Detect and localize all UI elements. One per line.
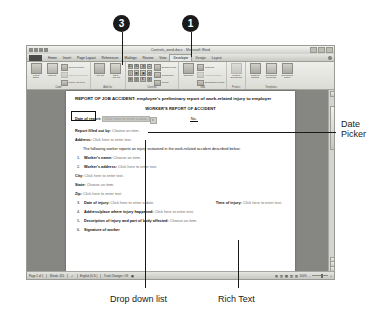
- minimize-button[interactable]: [310, 47, 317, 53]
- callout-3: 3: [113, 15, 130, 32]
- close-button[interactable]: [326, 47, 333, 53]
- tab-insert[interactable]: Insert: [60, 55, 74, 62]
- document-page[interactable]: REPORT OF JOB ACCIDENT: employee's preli…: [66, 91, 295, 272]
- zoom-in-button[interactable]: +: [330, 274, 332, 278]
- date-picker-annotation-line-2: Picker: [341, 129, 366, 139]
- window-controls[interactable]: [310, 47, 333, 53]
- intro-text: The following worker reports an injury s…: [83, 147, 240, 151]
- building-block-control-icon[interactable]: ▧: [147, 70, 152, 75]
- structure-button[interactable]: Structure: [181, 63, 195, 77]
- com-add-ins-button[interactable]: COMAdd-Ins: [109, 63, 123, 80]
- properties-button[interactable]: Properties: [154, 72, 176, 79]
- status-language[interactable]: English (U.S.): [80, 274, 97, 278]
- item-4-value[interactable]: Click here to enter text.: [155, 210, 194, 214]
- status-zoom-level[interactable]: 100%: [300, 274, 307, 278]
- add-ins-button[interactable]: Add-Ins: [93, 63, 107, 77]
- document-panel-button[interactable]: DocumentPanel: [280, 63, 294, 80]
- item-3: 3. Date of injury: Click here to enter a…: [75, 201, 286, 205]
- item-6: 6. Signature of worker: [75, 228, 286, 232]
- tab-references[interactable]: References: [99, 55, 122, 62]
- status-page[interactable]: Page 1 of 1: [29, 274, 43, 278]
- visual-basic-icon: [31, 63, 42, 74]
- schema-icon: [197, 64, 204, 71]
- scroll-thumb[interactable]: [330, 106, 336, 150]
- state-value[interactable]: Choose an item.: [87, 183, 115, 187]
- item-1-value[interactable]: Choose an item.: [113, 156, 141, 160]
- drop-down-list-control-icon[interactable]: ▦: [134, 70, 139, 75]
- callout-1: 1: [182, 15, 199, 32]
- transformation-icon: [197, 72, 204, 79]
- date-picker-control[interactable]: Click here to enter a date.: [102, 116, 149, 122]
- tab-view[interactable]: View: [156, 55, 169, 62]
- plain-text-control-icon[interactable]: Aa: [134, 64, 139, 69]
- print-layout-icon[interactable]: ▤: [275, 274, 278, 278]
- zip-value[interactable]: Click here to enter text.: [83, 192, 122, 196]
- vertical-scrollbar[interactable]: [328, 90, 334, 272]
- tab-review[interactable]: Review: [140, 55, 157, 62]
- web-layout-icon[interactable]: ▦: [285, 274, 288, 278]
- status-words[interactable]: Words: 415: [50, 274, 64, 278]
- legacy-checkbox-icon[interactable]: ▥: [134, 77, 139, 82]
- date-picker-dropdown-arrow[interactable]: ▾: [150, 117, 157, 124]
- zoom-out-button[interactable]: −: [309, 274, 311, 278]
- restrict-editing-button[interactable]: RestrictEditing: [248, 63, 262, 80]
- insert-overtype-icon[interactable]: ▣: [131, 274, 134, 278]
- address-value[interactable]: Click here to enter text.: [93, 138, 132, 142]
- item-5-value[interactable]: Choose an item.: [170, 219, 198, 223]
- help-icon[interactable]: [328, 56, 332, 60]
- tab-page-layout[interactable]: Page Layout: [74, 55, 99, 62]
- record-macro-icon: [61, 64, 68, 71]
- item-1: 1. Worker's name: Choose an item.: [75, 156, 286, 160]
- scroll-up-button[interactable]: [330, 91, 336, 97]
- tab-developer[interactable]: Developer: [169, 54, 192, 62]
- legacy-text-field-icon[interactable]: ▤: [128, 77, 133, 82]
- content-controls-gallery[interactable]: Aa Aa ▤ ☑ ☰ ▦ ▣ ▧ ▤ ▥ A↓ ▨: [128, 63, 153, 82]
- document-panel-icon: [282, 63, 293, 74]
- time-of-injury-value[interactable]: Click here to enter text.: [243, 201, 282, 205]
- visual-basic-label-2: Basic: [33, 76, 39, 79]
- ribbon-group-protect-label: Protect: [227, 86, 245, 89]
- status-track-changes[interactable]: Track Changes: Off: [104, 274, 128, 278]
- outline-icon[interactable]: ▧: [290, 274, 293, 278]
- combo-box-control-icon[interactable]: ☰: [128, 70, 133, 75]
- office-button[interactable]: [29, 55, 42, 62]
- zoom-slider-knob[interactable]: [321, 274, 323, 278]
- macros-button[interactable]: Macros: [45, 63, 59, 77]
- draft-icon[interactable]: ▨: [295, 274, 298, 278]
- visual-basic-button[interactable]: VisualBasic: [29, 63, 43, 80]
- proofing-icon[interactable]: ✓: [71, 274, 74, 278]
- tab-mailings[interactable]: Mailings: [121, 55, 139, 62]
- restore-button[interactable]: [318, 47, 325, 53]
- pause-recording-button: Pause Recording: [61, 72, 88, 79]
- protect-document-button[interactable]: ProtectDocument: [229, 63, 243, 80]
- picture-control-icon[interactable]: ▤: [140, 64, 145, 69]
- city-value[interactable]: Click here to enter text.: [85, 174, 124, 178]
- tab-design[interactable]: Design: [192, 55, 208, 62]
- item-5: 5. Description of injury and part of bod…: [75, 219, 286, 223]
- document-template-icon: [266, 63, 277, 74]
- restrict-editing-label-2: Editing: [251, 76, 259, 79]
- full-screen-icon[interactable]: ▥: [280, 274, 283, 278]
- legacy-combo-icon[interactable]: A↓: [140, 77, 145, 82]
- zoom-slider[interactable]: [312, 275, 328, 276]
- record-macro-button[interactable]: Record Macro: [61, 64, 88, 71]
- checkbox-control-icon[interactable]: ☑: [147, 64, 152, 69]
- tab-home[interactable]: Home: [45, 55, 60, 62]
- item-3-value[interactable]: Click here to enter a date.: [111, 201, 154, 205]
- item-2-value[interactable]: Click here to enter text.: [118, 165, 157, 169]
- legacy-tools-icon[interactable]: ▨: [147, 77, 152, 82]
- restrict-editing-icon: [250, 63, 261, 74]
- macros-icon: [47, 63, 58, 74]
- document-template-button[interactable]: DocumentTemplate: [264, 63, 278, 80]
- date-picker-control-icon[interactable]: ▣: [140, 70, 145, 75]
- document-heading: REPORT OF JOB ACCIDENT: employee's preli…: [75, 96, 286, 102]
- report-filled-dropdown[interactable]: Choose an item.: [112, 129, 140, 133]
- macro-security-label: Macro Security: [69, 81, 86, 84]
- tab-layout[interactable]: Layout: [209, 55, 225, 62]
- item-5-label: Description of injury and part of body a…: [84, 219, 169, 223]
- design-mode-button[interactable]: Design Mode: [154, 64, 176, 71]
- ribbon-group-templates: RestrictEditing DocumentTemplate Documen…: [246, 62, 296, 89]
- rich-text-control-icon[interactable]: Aa: [128, 64, 133, 69]
- schema-button[interactable]: Schema: [197, 64, 224, 71]
- item-4-label: Address/place where injury happened:: [84, 210, 154, 214]
